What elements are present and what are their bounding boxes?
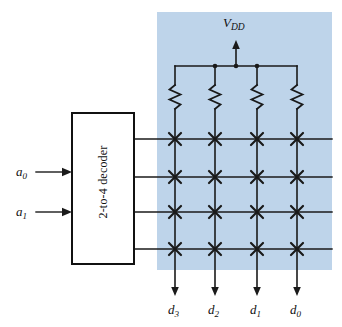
input-arrow-a0 (36, 168, 72, 176)
vdd-label: VDD (223, 16, 245, 30)
decoder-label: 2-to-4 decoder (96, 145, 111, 218)
rom-array-figure: VDD 2-to-4 decoder a0 a1 d3 d2 d1 d0 (0, 0, 342, 327)
input-label-a1: a1 (16, 205, 27, 218)
output-label-d1: d1 (250, 303, 261, 316)
input-arrow-a1 (36, 208, 72, 216)
bitline-arrowheads (171, 287, 301, 296)
output-label-d3: d3 (168, 303, 179, 316)
circuit-diagram-canvas (0, 0, 342, 327)
output-label-d2: d2 (208, 303, 219, 316)
input-label-a0: a0 (16, 165, 27, 178)
memory-array-shaded-region (157, 12, 332, 270)
output-label-d0: d0 (290, 303, 301, 316)
